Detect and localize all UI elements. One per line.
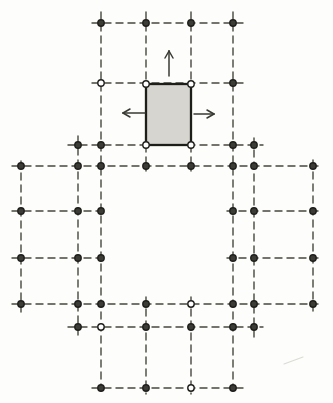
- grid-node-filled: [75, 208, 81, 214]
- grid-node-filled: [230, 142, 236, 148]
- grid-node-filled: [230, 80, 236, 86]
- grid-node-filled: [143, 20, 149, 26]
- grid-node-open-block-corner: [188, 81, 194, 87]
- grid-node-open: [98, 324, 104, 330]
- grid-node-filled: [310, 301, 316, 307]
- grid-node-filled: [230, 20, 236, 26]
- grid-node-filled: [251, 163, 257, 169]
- grid-node-filled: [98, 142, 104, 148]
- grid-node-filled: [143, 385, 149, 391]
- grid-node-filled: [251, 301, 257, 307]
- grid-node-filled: [251, 142, 257, 148]
- grid-node-filled: [75, 255, 81, 261]
- grid-node-filled: [230, 163, 236, 169]
- grid-node-filled: [310, 255, 316, 261]
- grid-node-open: [188, 385, 194, 391]
- diagram-figure: [0, 0, 333, 403]
- grid-node-filled: [18, 208, 24, 214]
- grid-node-filled: [251, 255, 257, 261]
- grid-node-filled: [143, 163, 149, 169]
- grid-node-filled: [188, 163, 194, 169]
- grid-node-filled: [230, 301, 236, 307]
- grid-node-filled: [143, 324, 149, 330]
- grid-node-filled: [75, 142, 81, 148]
- grid-node-filled: [98, 301, 104, 307]
- grid-node-filled: [230, 385, 236, 391]
- grid-node-open-block-corner: [188, 142, 194, 148]
- expansion-block: [146, 84, 191, 145]
- grid-node-filled: [310, 163, 316, 169]
- structural-grid-diagram: [0, 0, 333, 403]
- grid-node-filled: [188, 20, 194, 26]
- grid-node-filled: [18, 163, 24, 169]
- paper-background: [0, 0, 333, 403]
- grid-node-filled: [230, 324, 236, 330]
- grid-node-filled: [98, 255, 104, 261]
- grid-node-filled: [75, 324, 81, 330]
- grid-node-filled: [251, 208, 257, 214]
- grid-node-open-block-corner: [143, 142, 149, 148]
- grid-node-filled: [18, 255, 24, 261]
- grid-node-filled: [18, 301, 24, 307]
- grid-node-filled: [98, 208, 104, 214]
- grid-node-filled: [188, 324, 194, 330]
- grid-node-open: [98, 80, 104, 86]
- grid-node-filled: [98, 20, 104, 26]
- grid-node-open: [188, 301, 194, 307]
- grid-node-filled: [251, 324, 257, 330]
- grid-node-filled: [98, 163, 104, 169]
- grid-node-filled: [310, 208, 316, 214]
- grid-node-filled: [98, 385, 104, 391]
- grid-node-filled: [143, 301, 149, 307]
- grid-node-filled: [230, 255, 236, 261]
- grid-node-open-block-corner: [143, 81, 149, 87]
- grid-node-filled: [230, 208, 236, 214]
- grid-node-filled: [75, 163, 81, 169]
- grid-node-filled: [75, 301, 81, 307]
